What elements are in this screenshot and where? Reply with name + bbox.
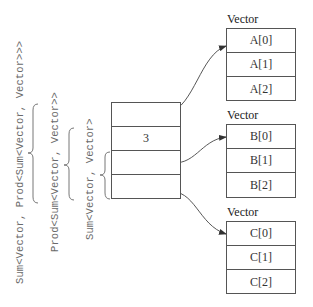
brace-outer-icon [28,104,38,203]
vector-a: A[0] A[1] A[2] [226,28,296,101]
vector-b-cell-0: B[0] [227,125,295,149]
stack-cell-scalar: 3 [112,127,180,151]
vector-c-cell-1: C[1] [227,246,295,270]
expression-node-stack: 3 [111,102,181,199]
vector-a-cell-2: A[2] [227,77,295,101]
vector-c-cell-2: C[2] [227,270,295,294]
vector-c-title: Vector [227,205,258,220]
stack-cell-pointer-a [112,103,180,127]
vector-b-cell-2: B[2] [227,173,295,197]
vector-b: B[0] B[1] B[2] [226,124,296,198]
vector-b-cell-1: B[1] [227,149,295,173]
brace-inner-icon [100,152,110,199]
vector-a-cell-1: A[1] [227,53,295,77]
brace-middle-icon [64,128,74,200]
expression-template-diagram: Sum<Vector, Prod<Sum<Vector, Vector>>> P… [0,0,313,307]
stack-cell-pointer-c [112,175,180,199]
stack-cell-pointer-b [112,151,180,175]
vector-a-title: Vector [227,12,258,27]
vector-a-cell-0: A[0] [227,29,295,53]
vector-c: C[0] C[1] C[2] [226,221,296,294]
vector-b-title: Vector [227,108,258,123]
vector-c-cell-0: C[0] [227,222,295,246]
